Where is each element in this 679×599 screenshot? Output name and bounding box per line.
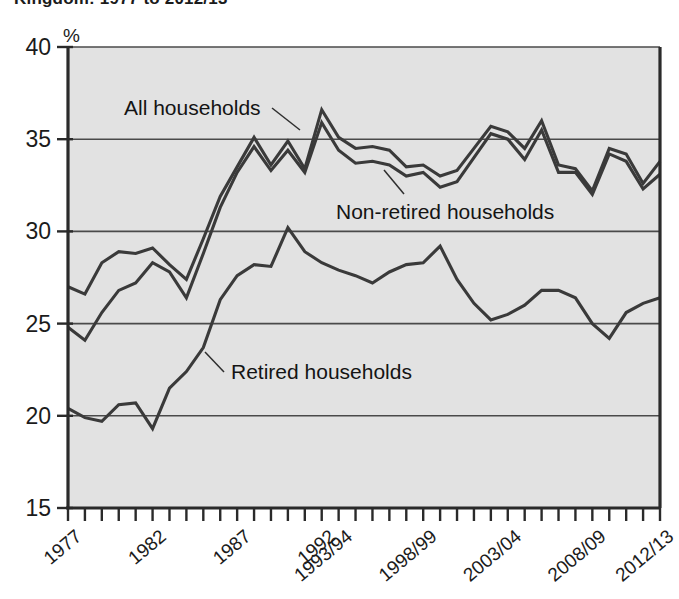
y-tick-label-35: 35	[25, 126, 51, 152]
y-tick-label-40: 40	[25, 34, 51, 60]
x-tick-label-2012-13: 2012/13	[611, 525, 677, 585]
line-chart: 403530252015 % 19771982198719921993/9419…	[0, 0, 679, 599]
y-tick-label-30: 30	[25, 218, 51, 244]
y-tick-label-25: 25	[25, 311, 51, 337]
y-axis-unit-label: %	[63, 25, 80, 46]
x-tick-label-1977: 1977	[40, 525, 86, 568]
x-tick-label-1998-99: 1998/99	[375, 525, 441, 585]
x-tick-label-1987: 1987	[209, 525, 255, 568]
x-tick-labels: 19771982198719921993/941998/992003/04200…	[40, 525, 678, 586]
x-tick-label-2008-09: 2008/09	[544, 525, 610, 585]
x-tick-marks	[68, 508, 660, 521]
y-tick-label-15: 15	[25, 495, 51, 521]
y-tick-label-20: 20	[25, 403, 51, 429]
annotation-non-retired-households: Non-retired households	[336, 200, 554, 223]
chart-title: Kingdom: 1977 to 2012/13	[14, 0, 228, 9]
x-tick-label-2003-04: 2003/04	[459, 525, 525, 586]
chart-figure: Kingdom: 1977 to 2012/13 403530252015 % …	[0, 0, 679, 599]
x-tick-label-1982: 1982	[124, 525, 170, 568]
y-tick-labels: 403530252015	[25, 34, 51, 521]
annotation-retired-households: Retired households	[231, 360, 412, 383]
annotation-all-households: All households	[124, 96, 261, 119]
